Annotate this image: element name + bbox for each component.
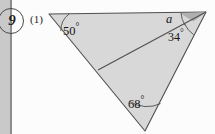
angle-34-value: 34 <box>168 30 180 44</box>
triangle-figure <box>0 0 215 134</box>
angle-68-value: 68 <box>128 97 141 111</box>
degree-symbol-34: ° <box>180 28 184 38</box>
degree-symbol-68: ° <box>141 94 145 105</box>
worksheet-page: 9 (1) 50° a 34° 68° <box>0 0 215 134</box>
degree-symbol-50: ° <box>76 21 80 32</box>
angle-50-value: 50 <box>63 24 76 38</box>
angle-label-34: 34° <box>168 29 184 43</box>
angle-label-50: 50° <box>63 22 79 38</box>
angle-label-a: a <box>166 13 172 26</box>
angle-label-68: 68° <box>128 95 144 111</box>
